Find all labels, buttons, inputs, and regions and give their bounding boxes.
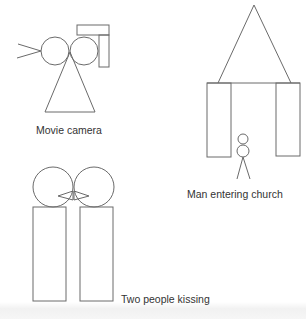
man-body — [237, 145, 249, 157]
church-figure — [207, 5, 300, 179]
church-right-wall — [276, 83, 300, 156]
right-person-body — [80, 207, 113, 301]
man-entering-church-label: Man entering church — [187, 188, 283, 200]
two-people-kissing-label: Two people kissing — [121, 293, 210, 305]
left-person-body — [33, 207, 66, 301]
line-drawings — [0, 0, 306, 319]
lens-ray-upper — [18, 44, 41, 51]
church-left-wall — [207, 83, 231, 157]
movie-camera-figure — [17, 25, 109, 112]
right-person-head — [74, 167, 114, 207]
tripod-triangle — [45, 52, 95, 112]
man-head — [238, 134, 248, 144]
camera-top-box — [77, 25, 109, 35]
film-reel-left — [41, 37, 69, 65]
man-right-leg — [243, 157, 250, 179]
kissing-figure — [33, 167, 114, 301]
camera-handle — [99, 35, 109, 67]
movie-camera-label: Movie camera — [36, 124, 102, 136]
lens-ray-lower — [17, 51, 41, 58]
left-person-head — [33, 167, 73, 207]
man-left-leg — [237, 157, 243, 179]
droodle-page: Movie camera Man entering church Two peo… — [0, 0, 306, 319]
church-roof — [218, 5, 291, 83]
